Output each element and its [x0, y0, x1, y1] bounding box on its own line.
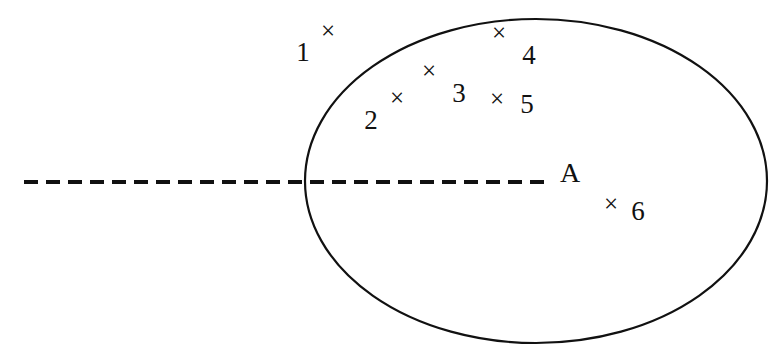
- point-label-3: 3: [452, 78, 466, 108]
- point-marker-x-2: ×: [390, 84, 404, 111]
- point-marker-x-5: ×: [490, 85, 504, 112]
- point-label-1: 1: [296, 37, 310, 67]
- region-label-a: A: [560, 157, 581, 188]
- point-marker-x-3: ×: [422, 57, 436, 84]
- point-label-6: 6: [631, 196, 645, 226]
- point-label-2: 2: [364, 105, 378, 135]
- figure-svg: A × 1 × 2 × 3 × 4 × 5 × 6: [0, 0, 781, 362]
- diagram-canvas: A × 1 × 2 × 3 × 4 × 5 × 6: [0, 0, 781, 362]
- point-label-5: 5: [520, 89, 534, 119]
- point-marker-x-4: ×: [492, 19, 506, 46]
- point-marker-x-1: ×: [321, 17, 335, 44]
- point-label-4: 4: [522, 40, 536, 70]
- point-marker-x-6: ×: [604, 190, 618, 217]
